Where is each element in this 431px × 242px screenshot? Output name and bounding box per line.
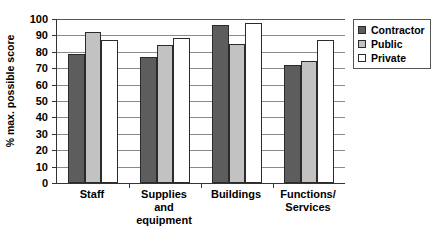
bar-group — [57, 19, 129, 183]
y-axis-title: % max. possible score — [0, 0, 20, 182]
y-axis-tick-label: 50 — [18, 95, 48, 107]
legend-item: Contractor — [358, 23, 425, 37]
bar — [173, 38, 190, 183]
legend-item-label: Private — [371, 52, 406, 64]
x-axis-category-labels: StaffSupplies and equipmentBuildingsFunc… — [56, 188, 344, 238]
bar — [68, 54, 85, 183]
legend-swatch-icon — [358, 40, 366, 48]
x-axis-category-label: Staff — [56, 188, 128, 201]
legend-item: Private — [358, 51, 425, 65]
bar — [317, 40, 334, 183]
y-axis-tick — [52, 183, 57, 184]
bar-group — [201, 19, 273, 183]
chart-legend: ContractorPublicPrivate — [353, 19, 431, 69]
bar — [101, 40, 118, 184]
bar — [245, 23, 262, 183]
y-axis-tick-labels: 1009080706050403020100 — [18, 13, 48, 183]
bar-group — [129, 19, 201, 183]
legend-swatch-icon — [358, 54, 366, 62]
y-axis-tick-label: 20 — [18, 144, 48, 156]
x-axis-category-label: Buildings — [200, 188, 272, 201]
y-axis-tick-label: 10 — [18, 161, 48, 173]
legend-item: Public — [358, 37, 425, 51]
bar — [284, 65, 301, 183]
bar — [85, 32, 102, 183]
bar — [212, 25, 229, 183]
x-axis-category-label: Supplies and equipment — [128, 188, 200, 227]
legend-item-label: Public — [371, 38, 403, 50]
y-axis-tick-label: 90 — [18, 29, 48, 41]
bar — [157, 45, 174, 183]
y-axis-tick-label: 30 — [18, 128, 48, 140]
y-axis-title-label: % max. possible score — [4, 35, 16, 148]
bar — [140, 57, 157, 183]
bar — [229, 44, 246, 183]
bar-chart: % max. possible score 100908070605040302… — [0, 0, 431, 242]
y-axis-tick-label: 80 — [18, 46, 48, 58]
bar-group — [273, 19, 345, 183]
legend-swatch-icon — [358, 26, 366, 34]
y-axis-tick-label: 0 — [18, 177, 48, 189]
x-axis-category-label: Functions/ Services — [272, 188, 344, 214]
legend-item-label: Contractor — [371, 24, 425, 36]
y-axis-tick-label: 60 — [18, 79, 48, 91]
y-axis-tick-label: 70 — [18, 62, 48, 74]
plot-area — [56, 19, 345, 184]
bar — [301, 61, 318, 183]
y-axis-tick-label: 40 — [18, 111, 48, 123]
y-axis-tick-label: 100 — [18, 13, 48, 25]
